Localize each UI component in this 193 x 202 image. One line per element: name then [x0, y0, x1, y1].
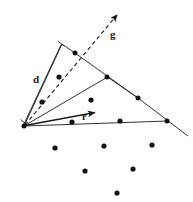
data-point [73, 51, 78, 56]
data-point [136, 96, 141, 101]
data-point [22, 124, 27, 129]
data-point [82, 168, 87, 173]
data-point [52, 145, 57, 150]
label-d: d [33, 74, 39, 85]
label-g: g [110, 29, 116, 40]
data-point [101, 143, 106, 148]
diagram-canvas: d g r [0, 0, 193, 202]
data-point [117, 118, 122, 123]
cone-left-boundary-ray [24, 44, 62, 126]
data-point [130, 166, 135, 171]
cone-rays-group [24, 44, 168, 126]
bracket-d-shaft [24, 45, 61, 124]
data-point [114, 190, 119, 195]
data-point [165, 119, 170, 124]
diagram-vector-layer [0, 0, 193, 202]
hull-edge-middle [108, 77, 139, 98]
data-point [88, 97, 93, 102]
hull-edge-lower-right [138, 98, 188, 136]
data-point [39, 99, 44, 104]
data-point [105, 75, 110, 80]
label-r: r [82, 112, 86, 122]
point-set-layer [22, 51, 170, 196]
direction-vector-g-ray [25, 15, 117, 125]
data-point [149, 142, 154, 147]
data-point [56, 74, 61, 79]
data-point [69, 119, 74, 124]
